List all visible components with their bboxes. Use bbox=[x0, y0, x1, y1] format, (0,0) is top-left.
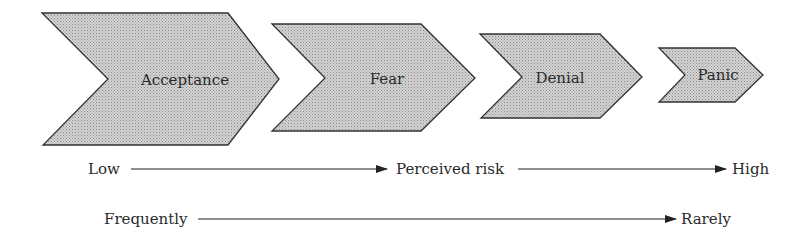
stage-label-fear: Fear bbox=[370, 70, 405, 88]
risk-low-label: Low bbox=[88, 160, 120, 178]
stage-label-denial: Denial bbox=[535, 69, 584, 87]
stage-label-panic: Panic bbox=[697, 66, 738, 84]
risk-high-label: High bbox=[732, 160, 769, 178]
frequency-scale: Frequently Rarely bbox=[104, 210, 731, 228]
stage-label-acceptance: Acceptance bbox=[140, 71, 229, 89]
response-stages-diagram: Acceptance Fear Denial Panic Low Perceiv… bbox=[0, 0, 805, 246]
stage-denial: Denial bbox=[480, 34, 642, 118]
stage-panic: Panic bbox=[659, 48, 763, 102]
frequency-end-label: Rarely bbox=[681, 210, 731, 228]
stage-acceptance: Acceptance bbox=[42, 13, 279, 145]
perceived-risk-scale: Low Perceived risk High bbox=[88, 160, 769, 178]
risk-middle-label: Perceived risk bbox=[396, 160, 505, 178]
stage-fear: Fear bbox=[272, 24, 475, 131]
frequency-start-label: Frequently bbox=[104, 210, 188, 228]
